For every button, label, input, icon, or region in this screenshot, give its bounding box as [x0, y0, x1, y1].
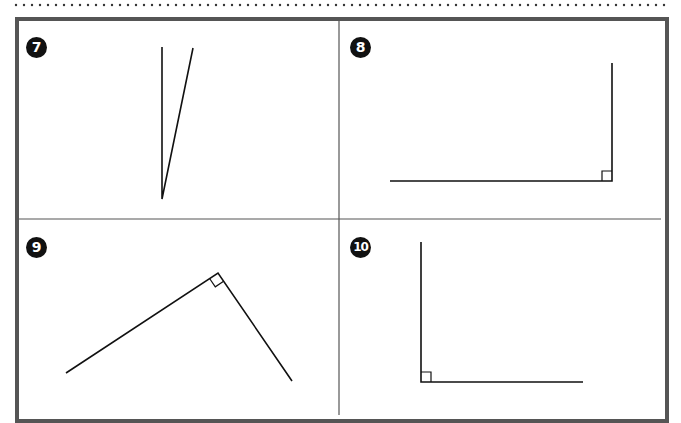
problem-number-7: 7	[26, 37, 47, 58]
angle-8	[390, 63, 612, 181]
problem-number-10: 10	[350, 237, 371, 258]
angle-10	[421, 242, 583, 382]
problem-number-9: 9	[26, 237, 47, 258]
angle-9	[66, 273, 292, 381]
problem-number-8: 8	[350, 37, 371, 58]
angle-7	[162, 47, 193, 199]
